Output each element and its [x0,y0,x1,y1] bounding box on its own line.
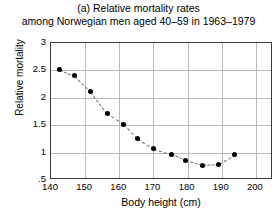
data-point [105,111,110,116]
plot-area [50,42,272,179]
data-point [216,162,221,167]
gridline-v [119,43,120,178]
x-tick-label: 140 [35,181,65,192]
plot-inner [51,43,271,178]
x-tick-label: 200 [240,181,270,192]
x-tick-label: 170 [137,181,167,192]
gridline-h [51,70,271,71]
gridline-h [51,125,271,126]
gridline-v [222,43,223,178]
x-tick-label: 150 [69,181,99,192]
gridline-v [188,43,189,178]
y-tick-label: 1 [16,147,46,157]
gridline-v [153,43,154,178]
x-axis-tick-labels: 140150160170180190200 [0,181,277,195]
data-point [232,152,237,157]
data-point [121,122,126,127]
gridline-h [51,153,271,154]
series-segment [90,92,107,114]
chart-figure: (a) Relative mortality rates among Norwe… [0,0,277,220]
y-tick-label: 2 [16,92,46,102]
x-tick-label: 160 [103,181,133,192]
y-tick-label: 3 [16,37,46,47]
x-tick-label: 180 [172,181,202,192]
y-tick-label: 2.5 [16,64,46,74]
data-point [200,163,205,168]
gridline-v [85,43,86,178]
x-axis-title: Body height (cm) [50,196,272,208]
y-tick-label: 1.5 [16,119,46,129]
gridline-v [256,43,257,178]
gridline-h [51,98,271,99]
x-tick-label: 190 [206,181,236,192]
